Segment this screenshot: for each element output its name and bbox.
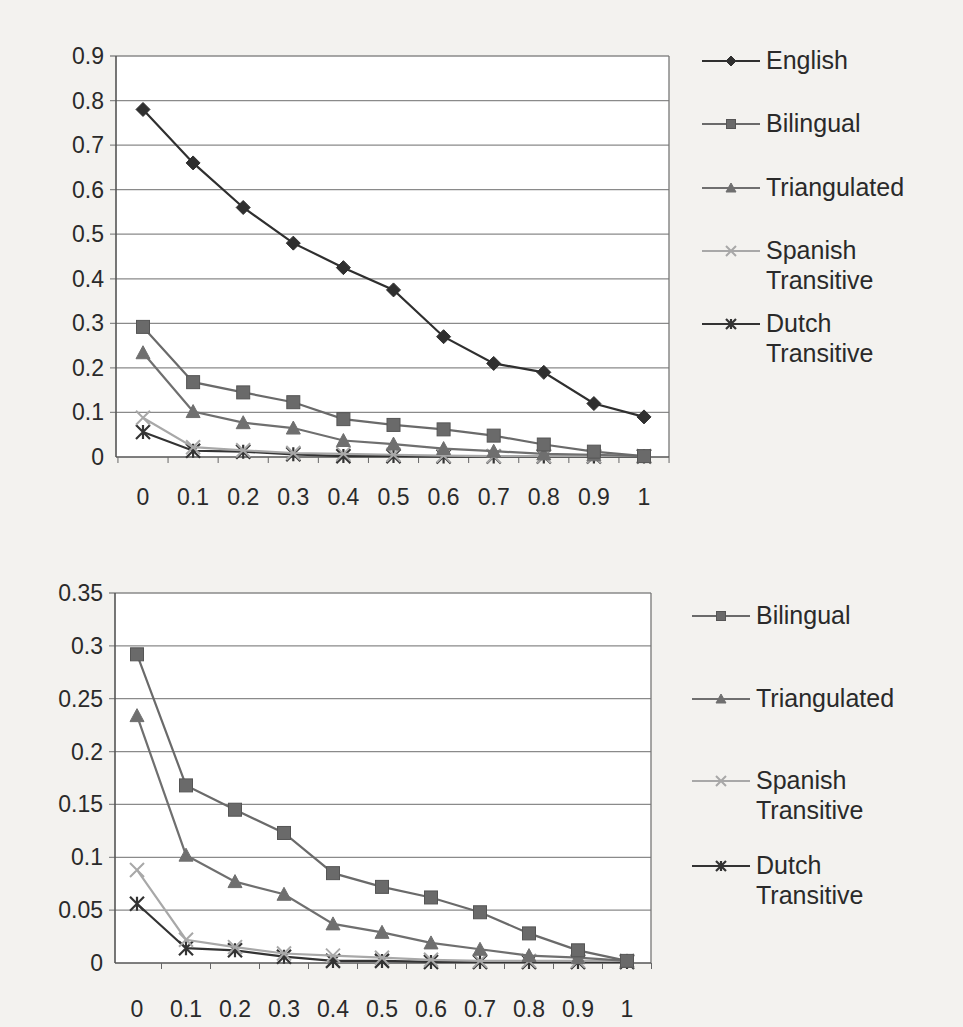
legend-item: Spanish Transitive <box>700 235 873 295</box>
x-tick-label: 0.7 <box>464 996 496 1022</box>
plot-area <box>116 56 669 457</box>
legend-swatch-icon <box>700 112 762 136</box>
y-tick-label: 0.1 <box>71 844 103 870</box>
square-marker-icon <box>229 803 242 816</box>
square-marker-icon <box>523 927 536 940</box>
square-marker-icon <box>437 423 450 436</box>
x-tick-label: 0.4 <box>317 996 349 1022</box>
square-marker-icon <box>587 445 600 458</box>
legend-item: Triangulated <box>690 683 894 713</box>
chart-bottom-non-english-conditions: 00.050.10.150.20.250.30.3500.10.20.30.40… <box>0 520 963 1027</box>
diamond-marker-icon <box>726 56 736 66</box>
x-tick-label: 0 <box>137 484 150 510</box>
x-tick-label: 0.8 <box>513 996 545 1022</box>
y-tick-label: 0.9 <box>72 43 104 69</box>
legend-swatch-icon <box>690 769 752 793</box>
legend-label: Dutch Transitive <box>756 850 863 910</box>
square-marker-icon <box>717 612 726 621</box>
y-tick-label: 0.3 <box>71 633 103 659</box>
legend-item: Dutch Transitive <box>690 850 863 910</box>
x-tick-label: 0.9 <box>578 484 610 510</box>
y-tick-label: 0.8 <box>72 88 104 114</box>
square-marker-icon <box>327 867 340 880</box>
square-marker-icon <box>137 320 150 333</box>
legend-label: Triangulated <box>756 683 894 713</box>
chart-top-all-conditions: 00.10.20.30.40.50.60.70.80.900.10.20.30.… <box>0 0 963 520</box>
legend-label: Dutch Transitive <box>766 308 873 368</box>
x-tick-label: 0.6 <box>415 996 447 1022</box>
legend-swatch-icon <box>700 312 762 336</box>
legend-label: Bilingual <box>766 108 861 138</box>
legend-label: English <box>766 45 848 75</box>
x-tick-label: 0.4 <box>327 484 359 510</box>
x-tick-label: 0.3 <box>268 996 300 1022</box>
y-tick-label: 0.3 <box>72 310 104 336</box>
legend-item: Bilingual <box>690 600 851 630</box>
y-tick-label: 0.35 <box>58 580 103 606</box>
y-tick-label: 0.2 <box>71 739 103 765</box>
square-marker-icon <box>487 429 500 442</box>
legend-swatch-icon <box>700 239 762 263</box>
square-marker-icon <box>638 450 651 463</box>
legend-label: Spanish Transitive <box>756 765 863 825</box>
y-tick-label: 0.05 <box>58 897 103 923</box>
y-tick-label: 0.1 <box>72 399 104 425</box>
square-marker-icon <box>237 386 250 399</box>
x-tick-label: 0.2 <box>227 484 259 510</box>
legend-swatch-icon <box>690 854 752 878</box>
y-tick-label: 0.6 <box>72 177 104 203</box>
y-tick-label: 0.15 <box>58 791 103 817</box>
x-tick-label: 0.1 <box>177 484 209 510</box>
legend-swatch-icon <box>700 176 762 200</box>
square-marker-icon <box>425 891 438 904</box>
y-tick-label: 0.25 <box>58 686 103 712</box>
x-tick-label: 0.2 <box>219 996 251 1022</box>
x-tick-label: 0.8 <box>528 484 560 510</box>
x-tick-label: 0 <box>131 996 144 1022</box>
y-tick-label: 0.2 <box>72 355 104 381</box>
y-tick-label: 0.4 <box>72 266 104 292</box>
legend-item: Dutch Transitive <box>700 308 873 368</box>
x-tick-label: 0.7 <box>478 484 510 510</box>
legend-swatch-icon <box>690 687 752 711</box>
square-marker-icon <box>474 906 487 919</box>
square-marker-icon <box>387 418 400 431</box>
square-marker-icon <box>337 413 350 426</box>
square-marker-icon <box>727 120 736 129</box>
y-tick-label: 0.7 <box>72 132 104 158</box>
legend-label: Spanish Transitive <box>766 235 873 295</box>
x-tick-label: 0.9 <box>562 996 594 1022</box>
legend-item: English <box>700 45 848 75</box>
y-tick-label: 0.5 <box>72 221 104 247</box>
legend-swatch-icon <box>690 604 752 628</box>
square-marker-icon <box>537 438 550 451</box>
square-marker-icon <box>131 648 144 661</box>
x-tick-label: 1 <box>638 484 651 510</box>
legend-item: Bilingual <box>700 108 861 138</box>
square-marker-icon <box>187 376 200 389</box>
y-tick-label: 0 <box>90 950 103 976</box>
legend-swatch-icon <box>700 49 762 73</box>
plot-area <box>115 593 651 963</box>
x-tick-label: 0.5 <box>366 996 398 1022</box>
x-tick-label: 0.1 <box>170 996 202 1022</box>
legend-item: Spanish Transitive <box>690 765 863 825</box>
x-tick-label: 0.5 <box>378 484 410 510</box>
legend-label: Bilingual <box>756 600 851 630</box>
x-tick-label: 1 <box>621 996 634 1022</box>
square-marker-icon <box>278 826 291 839</box>
square-marker-icon <box>180 779 193 792</box>
y-tick-label: 0 <box>91 444 104 470</box>
legend-label: Triangulated <box>766 172 904 202</box>
square-marker-icon <box>572 944 585 957</box>
square-marker-icon <box>287 396 300 409</box>
square-marker-icon <box>376 880 389 893</box>
square-marker-icon <box>621 954 634 967</box>
legend-item: Triangulated <box>700 172 904 202</box>
x-tick-label: 0.3 <box>277 484 309 510</box>
x-tick-label: 0.6 <box>428 484 460 510</box>
